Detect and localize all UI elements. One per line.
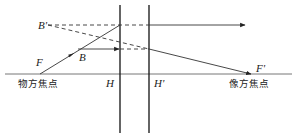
ray-b-prime-diagonal-dashed <box>48 25 149 49</box>
ray-f-to-h <box>40 25 120 74</box>
label-f-prime: F' <box>255 62 266 74</box>
ray-to-f-prime <box>149 49 251 74</box>
label-b: B <box>79 51 86 63</box>
label-object-focus: 物方焦点 <box>18 78 58 89</box>
label-f: F <box>35 56 43 68</box>
label-h-prime: H' <box>153 77 165 89</box>
label-image-focus: 像方焦点 <box>229 78 269 89</box>
label-b-prime: B' <box>38 19 48 31</box>
principal-planes-diagram: B' B F F' H H' 物方焦点 像方焦点 <box>0 0 296 139</box>
label-h: H <box>105 77 115 89</box>
